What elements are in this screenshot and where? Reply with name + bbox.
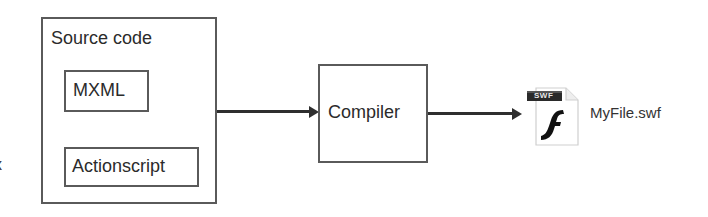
compiler-label: Compiler	[328, 102, 400, 123]
swf-badge-text: SWF	[534, 91, 553, 101]
cropped-edge-glyph: x	[0, 158, 2, 172]
output-file-label: MyFile.swf	[590, 104, 661, 121]
arrow-compiler-to-file	[428, 112, 513, 115]
source-code-title: Source code	[51, 28, 152, 49]
cropped-edge-text: x	[0, 158, 5, 172]
arrow-head-compiler-to-file	[512, 108, 522, 120]
swf-file-icon: SWF	[526, 86, 582, 148]
mxml-label: MXML	[73, 80, 125, 101]
actionscript-label: Actionscript	[72, 156, 165, 177]
arrow-source-to-compiler	[217, 110, 310, 113]
